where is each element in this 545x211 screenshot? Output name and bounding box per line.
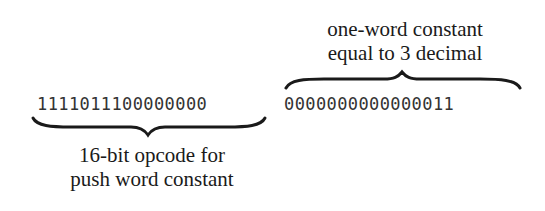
opcode-label-line1: 16-bit opcode for [36,143,268,167]
constant-label-line1: one-word constant [290,17,520,41]
constant-label-line2: equal to 3 decimal [290,41,520,65]
constant-label: one-word constant equal to 3 decimal [290,17,520,65]
opcode-brace-icon [31,116,271,138]
opcode-label: 16-bit opcode for push word constant [36,143,268,191]
constant-bits: 0000000000000011 [284,94,454,114]
constant-brace-icon [284,70,524,90]
opcode-label-line2: push word constant [36,167,268,191]
opcode-bits: 1111011100000000 [37,94,207,114]
